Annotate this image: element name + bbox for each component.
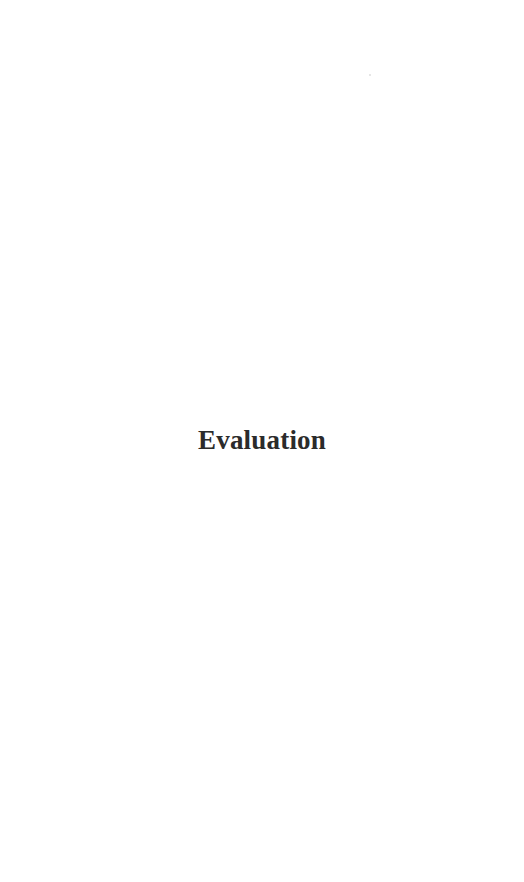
document-page: Evaluation — [0, 0, 524, 882]
scan-artifact — [369, 74, 371, 76]
section-title: Evaluation — [0, 424, 524, 456]
